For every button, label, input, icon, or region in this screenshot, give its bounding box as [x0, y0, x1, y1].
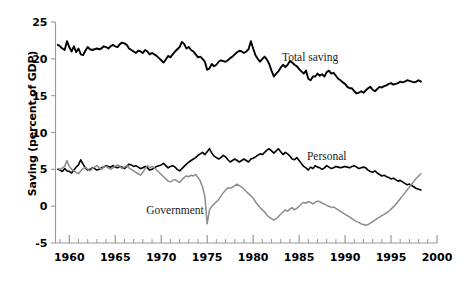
- annotation-total-saving: Total saving: [282, 51, 339, 64]
- x-tick-label: 1980: [238, 251, 269, 264]
- annotation-government: Government: [146, 204, 204, 216]
- series-line-government: [58, 160, 421, 225]
- x-tick-label: 1995: [376, 251, 407, 264]
- x-tick-label: 2000: [422, 251, 453, 264]
- x-tick-label: 1990: [330, 251, 361, 264]
- annotation-personal: Personal: [307, 150, 347, 162]
- x-tick-label: 1975: [192, 251, 223, 264]
- y-tick-label: 0: [40, 200, 48, 213]
- x-tick-label: 1960: [54, 251, 85, 264]
- y-tick-label: 5: [40, 163, 48, 176]
- y-tick-label: 15: [32, 90, 47, 103]
- y-tick-label: -5: [35, 237, 47, 250]
- chart-plot-area: -50510152025 196019651970197519801985199…: [0, 0, 466, 281]
- series-line-total-saving: [58, 41, 421, 93]
- y-tick-label: 25: [32, 16, 47, 29]
- x-tick-label: 1985: [284, 251, 315, 264]
- x-tick-label: 1965: [100, 251, 131, 264]
- saving-percent-gdp-chart: Saving (percent of GDP) -50510152025 196…: [0, 0, 466, 281]
- series-line-personal: [58, 149, 421, 190]
- y-axis: -50510152025: [32, 16, 55, 250]
- data-series-group: [58, 41, 421, 225]
- y-tick-label: 20: [32, 53, 48, 66]
- y-tick-label: 10: [32, 127, 48, 140]
- x-tick-label: 1970: [146, 251, 177, 264]
- x-axis: 196019651970197519801985199019952000: [54, 235, 453, 264]
